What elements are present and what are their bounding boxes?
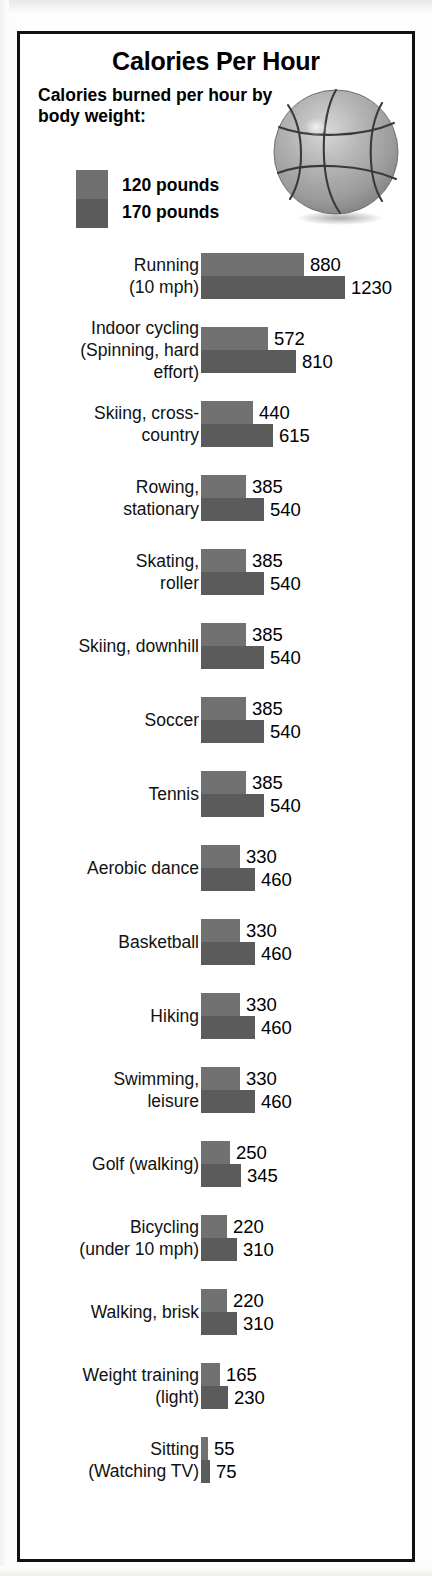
row-label-line: stationary (19, 498, 199, 520)
row-label: Rowing,stationary (19, 476, 199, 520)
table-row: Running(10 mph)8801230 (20, 249, 412, 323)
bar-value-label: 385 (246, 771, 283, 794)
row-label-line: (10 mph) (19, 276, 199, 298)
row-label: Indoor cycling(Spinning, hardeffort) (19, 317, 199, 383)
bar-value-label: 540 (264, 498, 301, 521)
row-label-line: Rowing, (19, 476, 199, 498)
bar-170lb (201, 1164, 241, 1187)
bar-120lb (201, 1437, 208, 1460)
row-label-line: Weight training (19, 1364, 199, 1386)
bar-value-label: 230 (228, 1386, 265, 1409)
row-label-line: (Watching TV) (19, 1460, 199, 1482)
bar-170lb (201, 868, 255, 891)
row-label: Soccer (19, 709, 199, 731)
bar-120lb (201, 549, 246, 572)
row-label-line: Indoor cycling (19, 317, 199, 339)
bar-120lb (201, 697, 246, 720)
bar-120lb (201, 401, 253, 424)
row-label: Swimming,leisure (19, 1068, 199, 1112)
row-label-line: Tennis (19, 783, 199, 805)
table-row: Weight training(light)165230 (20, 1359, 412, 1433)
bar-value-label: 810 (296, 350, 333, 373)
row-label-line: Skating, (19, 550, 199, 572)
row-label: Tennis (19, 783, 199, 805)
bar-value-label: 220 (227, 1215, 264, 1238)
bar-value-label: 385 (246, 697, 283, 720)
row-label-line: effort) (19, 361, 199, 383)
table-row: Sitting(Watching TV)5575 (20, 1433, 412, 1507)
bar-value-label: 165 (220, 1363, 257, 1386)
chart-frame: Calories Per Hour Calories burned per ho… (17, 31, 415, 1562)
bar-170lb (201, 1238, 237, 1261)
bar-170lb (201, 720, 264, 743)
bar-120lb (201, 919, 240, 942)
bar-120lb (201, 475, 246, 498)
bar-170lb (201, 1090, 255, 1113)
bar-170lb (201, 1460, 210, 1483)
bar-rows: Running(10 mph)8801230Indoor cycling(Spi… (20, 34, 412, 1559)
table-row: Skating,roller385540 (20, 545, 412, 619)
bar-120lb (201, 993, 240, 1016)
row-label-line: Aerobic dance (19, 857, 199, 879)
row-label: Skiing, cross-country (19, 402, 199, 446)
bar-value-label: 385 (246, 623, 283, 646)
bar-value-label: 75 (210, 1460, 237, 1483)
row-label-line: Skiing, downhill (19, 635, 199, 657)
bar-170lb (201, 794, 264, 817)
row-label-line: (under 10 mph) (19, 1238, 199, 1260)
row-label: Golf (walking) (19, 1153, 199, 1175)
bar-170lb (201, 1386, 228, 1409)
bar-170lb (201, 350, 296, 373)
bar-value-label: 460 (255, 1016, 292, 1039)
table-row: Walking, brisk220310 (20, 1285, 412, 1359)
row-label-line: Skiing, cross- (19, 402, 199, 424)
row-label-line: Running (19, 254, 199, 276)
table-row: Basketball330460 (20, 915, 412, 989)
bar-value-label: 440 (253, 401, 290, 424)
chart-page: Calories Per Hour Calories burned per ho… (0, 0, 432, 1576)
bar-value-label: 460 (255, 868, 292, 891)
row-label: Sitting(Watching TV) (19, 1438, 199, 1482)
table-row: Tennis385540 (20, 767, 412, 841)
row-label-line: roller (19, 572, 199, 594)
row-label-line: Golf (walking) (19, 1153, 199, 1175)
bar-120lb (201, 623, 246, 646)
bar-value-label: 330 (240, 919, 277, 942)
bar-120lb (201, 771, 246, 794)
paper-edge-bottom (0, 1566, 432, 1576)
bar-value-label: 540 (264, 720, 301, 743)
bar-170lb (201, 1016, 255, 1039)
row-label: Bicycling(under 10 mph) (19, 1216, 199, 1260)
bar-value-label: 55 (208, 1437, 235, 1460)
bar-170lb (201, 498, 264, 521)
bar-value-label: 385 (246, 475, 283, 498)
table-row: Soccer385540 (20, 693, 412, 767)
bar-170lb (201, 424, 273, 447)
bar-120lb (201, 1289, 227, 1312)
row-label: Aerobic dance (19, 857, 199, 879)
bar-value-label: 250 (230, 1141, 267, 1164)
row-label-line: leisure (19, 1090, 199, 1112)
row-label: Basketball (19, 931, 199, 953)
table-row: Skiing, downhill385540 (20, 619, 412, 693)
row-label-line: Hiking (19, 1005, 199, 1027)
bar-120lb (201, 1215, 227, 1238)
row-label-line: Soccer (19, 709, 199, 731)
table-row: Swimming,leisure330460 (20, 1063, 412, 1137)
table-row: Hiking330460 (20, 989, 412, 1063)
bar-value-label: 330 (240, 845, 277, 868)
row-label: Running(10 mph) (19, 254, 199, 298)
row-label-line: Sitting (19, 1438, 199, 1460)
bar-value-label: 880 (304, 253, 341, 276)
row-label: Walking, brisk (19, 1301, 199, 1323)
bar-120lb (201, 1067, 240, 1090)
bar-value-label: 330 (240, 993, 277, 1016)
row-label-line: country (19, 424, 199, 446)
row-label: Hiking (19, 1005, 199, 1027)
bar-value-label: 540 (264, 646, 301, 669)
table-row: Golf (walking)250345 (20, 1137, 412, 1211)
bar-value-label: 460 (255, 942, 292, 965)
table-row: Rowing,stationary385540 (20, 471, 412, 545)
paper-edge-left (0, 0, 9, 1576)
bar-170lb (201, 572, 264, 595)
